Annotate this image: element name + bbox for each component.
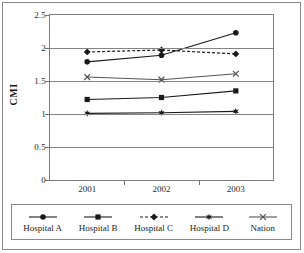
legend-swatch-circle-icon bbox=[26, 212, 60, 222]
data-point-circle bbox=[84, 59, 90, 65]
legend-label: Hospital C bbox=[134, 223, 173, 233]
data-point-diamond bbox=[232, 51, 239, 58]
x-axis-tick-mark bbox=[124, 181, 125, 185]
series-layer bbox=[50, 15, 273, 180]
legend-label: Nation bbox=[250, 223, 275, 233]
data-point-square bbox=[96, 214, 101, 219]
legend-item-hospital-d[interactable]: Hospital D bbox=[190, 212, 229, 233]
legend-label: Hospital D bbox=[190, 223, 229, 233]
legend-item-nation[interactable]: Nation bbox=[246, 212, 280, 233]
legend-item-hospital-c[interactable]: Hospital C bbox=[134, 212, 173, 233]
legend-label: Hospital A bbox=[23, 223, 62, 233]
legend-swatch-diamond-icon bbox=[137, 212, 171, 222]
gridline bbox=[50, 114, 273, 115]
x-axis-tick-label: 2002 bbox=[142, 185, 182, 194]
x-axis-tick-label: 2001 bbox=[67, 185, 107, 194]
x-axis-tick-mark bbox=[199, 181, 200, 185]
legend-item-hospital-a[interactable]: Hospital A bbox=[23, 212, 62, 233]
x-axis-tick-label: 2003 bbox=[216, 185, 256, 194]
data-point-diamond bbox=[150, 213, 157, 220]
legend-swatch-square-icon bbox=[81, 212, 115, 222]
plot-area bbox=[49, 14, 274, 181]
chart-canvas: CMI 00.511.522.5 200120022003 bbox=[3, 3, 300, 197]
gridline bbox=[50, 147, 273, 148]
legend: Hospital AHospital BHospital CHospital D… bbox=[11, 204, 292, 240]
data-point-square bbox=[233, 88, 238, 93]
data-point-square bbox=[159, 95, 164, 100]
legend-swatch-star-icon bbox=[192, 212, 226, 222]
series-hospital-b bbox=[85, 88, 239, 102]
gridline bbox=[50, 48, 273, 49]
data-point-diamond bbox=[84, 49, 91, 56]
legend-swatch-cross-icon bbox=[246, 212, 280, 222]
data-point-square bbox=[85, 97, 90, 102]
chart-figure: CMI 00.511.522.5 200120022003 Hospital A… bbox=[0, 0, 304, 253]
data-point-circle bbox=[40, 214, 46, 220]
legend-item-hospital-b[interactable]: Hospital B bbox=[79, 212, 118, 233]
data-point-circle bbox=[233, 30, 239, 36]
y-axis-tick-labels: 00.511.522.5 bbox=[17, 14, 46, 181]
series-hospital-d bbox=[84, 108, 239, 117]
legend-label: Hospital B bbox=[79, 223, 118, 233]
legend-items: Hospital AHospital BHospital CHospital D… bbox=[15, 208, 288, 236]
gridline bbox=[50, 81, 273, 82]
